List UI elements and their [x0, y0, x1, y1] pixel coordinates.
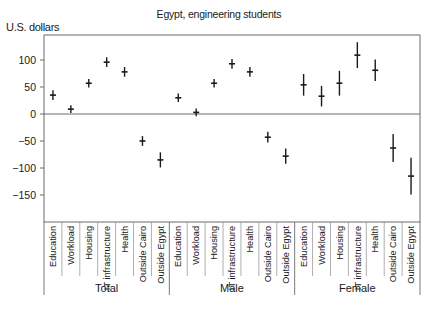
category-label: Housing: [84, 226, 94, 260]
chart-container: Egypt, engineering students U.S. dollars…: [0, 0, 438, 315]
category-label: Outside Egypt: [156, 226, 166, 284]
plot-area: 100500−50−100−150EducationWorkloadHousin…: [0, 0, 438, 315]
category-label: Health: [245, 226, 255, 253]
y-tick-label: 0: [30, 108, 36, 120]
category-label: Health: [370, 226, 380, 253]
category-label: Workload: [66, 226, 76, 265]
category-label: IT infrastructure: [227, 226, 237, 290]
group-label: Male: [220, 282, 244, 294]
category-label: Health: [120, 226, 130, 253]
category-label: Outside Cairo: [138, 226, 148, 282]
y-tick-label: −150: [12, 189, 36, 201]
group-label: Total: [95, 282, 118, 294]
category-label: Outside Egypt: [406, 226, 416, 284]
y-tick-label: −100: [12, 162, 36, 174]
category-label: Outside Cairo: [263, 226, 273, 282]
category-label: Education: [48, 226, 58, 267]
category-label: Outside Egypt: [281, 226, 291, 284]
y-tick-label: −50: [18, 135, 36, 147]
category-label: Housing: [209, 226, 219, 260]
category-label: Workload: [317, 226, 327, 265]
category-label: IT infrastructure: [353, 226, 363, 290]
category-label: Housing: [335, 226, 345, 260]
y-tick-label: 50: [24, 81, 36, 93]
category-label: Education: [299, 226, 309, 267]
category-label: Workload: [191, 226, 201, 265]
category-label: Outside Cairo: [388, 226, 398, 282]
group-label: Female: [339, 282, 376, 294]
category-label: IT infrastructure: [102, 226, 112, 290]
category-label: Education: [173, 226, 183, 267]
y-tick-label: 100: [18, 54, 36, 66]
